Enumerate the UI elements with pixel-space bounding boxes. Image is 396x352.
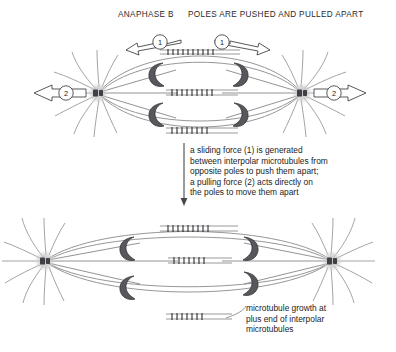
caption-leader-line bbox=[226, 306, 246, 318]
pulling-force-arrow-left: 2 bbox=[34, 85, 86, 101]
overlap-zone-bottom-lower bbox=[166, 313, 232, 320]
chromosome-top-left-upper bbox=[149, 63, 164, 87]
overlap-zone-top-upper bbox=[160, 49, 240, 55]
pulling-force-label-right: 2 bbox=[332, 89, 336, 98]
overlap-zone-top-lower bbox=[166, 127, 238, 134]
bottom-spindle-panel bbox=[2, 218, 375, 320]
overlap-zone-bottom-upper bbox=[160, 225, 238, 232]
top-spindle-panel: 1 1 2 2 bbox=[34, 35, 366, 137]
centrosome-pole-top-right bbox=[291, 82, 313, 104]
overlap-zone-bottom-middle bbox=[168, 257, 232, 264]
sliding-force-badge-right: 1 bbox=[215, 35, 229, 49]
pulling-force-arrow-right: 2 bbox=[314, 85, 366, 101]
centrosome-pole-bottom-left bbox=[34, 250, 56, 272]
sliding-force-label-right: 1 bbox=[220, 38, 224, 47]
sliding-force-badge-left: 1 bbox=[153, 35, 167, 49]
overlap-zone-top-middle bbox=[166, 89, 238, 96]
centrosome-pole-bottom-right bbox=[321, 250, 343, 272]
spindle-illustration: 1 1 2 2 bbox=[0, 0, 396, 352]
spindle-microtubules-top bbox=[99, 56, 301, 127]
centrosome-pole-top-left bbox=[87, 82, 109, 104]
pulling-force-label-left: 2 bbox=[64, 89, 68, 98]
chromosome-top-left-lower bbox=[149, 103, 164, 127]
diagram-canvas: ANAPHASE B POLES ARE PUSHED AND PULLED A… bbox=[0, 0, 396, 352]
sliding-force-label-left: 1 bbox=[158, 38, 162, 47]
process-flow-arrow bbox=[181, 143, 188, 206]
